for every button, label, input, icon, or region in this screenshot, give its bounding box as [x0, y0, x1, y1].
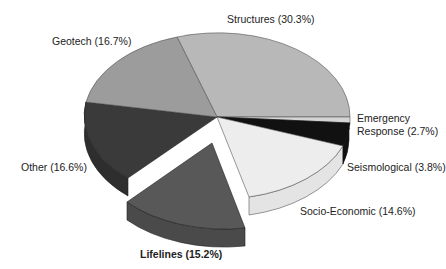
label-structures: Structures (30.3%) — [227, 13, 315, 26]
label-lifelines: Lifelines (15.2%) — [140, 248, 222, 261]
label-geotech: Geotech (16.7%) — [52, 35, 131, 48]
label-seismological: Seismological (3.8%) — [347, 161, 446, 174]
label-socio-economic: Socio-Economic (14.6%) — [300, 205, 416, 218]
label-emergency-line1: Emergency — [357, 112, 410, 125]
label-other: Other (16.6%) — [21, 161, 87, 174]
label-emergency-line2: Response (2.7%) — [357, 125, 438, 138]
